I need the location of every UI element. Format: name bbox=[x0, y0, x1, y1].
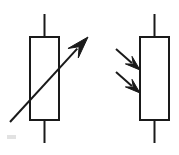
variable-resistor-body bbox=[30, 37, 59, 120]
photoresistor-light-arrow-lower-shaft bbox=[116, 72, 132, 86]
circuit-symbols-diagram bbox=[0, 0, 179, 155]
photoresistor-body bbox=[140, 37, 169, 120]
photoresistor-symbol bbox=[116, 14, 169, 143]
variable-resistor-symbol bbox=[10, 14, 88, 143]
photoresistor-light-arrow-upper-shaft bbox=[116, 49, 132, 63]
diagram-svg-root bbox=[0, 0, 179, 155]
scan-speck-artifact bbox=[7, 135, 16, 139]
